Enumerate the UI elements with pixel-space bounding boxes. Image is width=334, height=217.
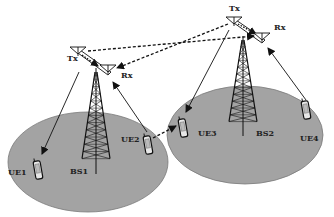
link-bs1-tx-to-bs2-rx <box>88 36 254 51</box>
antenna-bar <box>78 50 111 75</box>
label-bs1: BS1 <box>70 166 88 176</box>
antenna-bar <box>234 20 265 43</box>
network-diagram: BS1TxRxBS2TxRxUE1UE2UE3UE4 <box>0 0 334 217</box>
diagram-canvas: BS1TxRxBS2TxRxUE1UE2UE3UE4 <box>0 0 334 217</box>
cell-coverage-areas <box>8 86 323 212</box>
label-ue3: UE3 <box>198 128 217 138</box>
label-ue4: UE4 <box>300 133 319 143</box>
label-rx-bs1: Rx <box>121 70 133 80</box>
label-bs2: BS2 <box>256 128 274 138</box>
label-ue1: UE1 <box>8 167 27 177</box>
link-bs2-tx-to-bs1-rx <box>117 24 228 68</box>
label-tx-bs2: Tx <box>229 3 240 13</box>
label-ue2: UE2 <box>121 134 140 144</box>
label-tx-bs1: Tx <box>67 53 78 63</box>
label-rx-bs2: Rx <box>274 22 286 32</box>
